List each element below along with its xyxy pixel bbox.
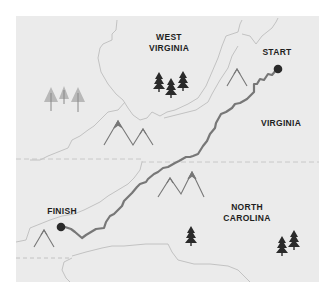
state-borders — [16, 18, 278, 282]
pine-tree-icon — [165, 78, 177, 98]
state-label-virginia: VIRGINIA — [261, 118, 301, 129]
nc-south-border — [72, 244, 250, 282]
finish-label: FINISH — [47, 206, 77, 217]
state-label-west-virginia: WEST VIRGINIA — [149, 32, 189, 54]
wv-line1: WEST — [149, 32, 189, 43]
wv-line2: VIRGINIA — [149, 43, 189, 54]
start-marker-icon — [274, 65, 283, 74]
nc-pine-trees — [185, 226, 300, 256]
pine-tree-icon — [153, 72, 165, 92]
pine-tree-icon — [177, 71, 189, 91]
va-nc-dashed-border — [16, 159, 319, 162]
start-label: START — [262, 47, 291, 58]
nc-line1: NORTH — [223, 202, 270, 213]
mountain-icon — [104, 121, 153, 145]
mountain-icon — [34, 230, 54, 247]
wv-pine-trees — [153, 71, 189, 98]
light-tree-icon — [71, 87, 85, 112]
pine-tree-icon — [276, 236, 288, 256]
light-tree-group — [44, 86, 85, 112]
mountain-icon — [227, 69, 247, 86]
ky-border — [164, 46, 238, 118]
wv-east-border — [242, 18, 278, 44]
nc-line2: CAROLINA — [223, 213, 270, 224]
nc-sc-border — [62, 258, 72, 282]
finish-marker-icon — [57, 223, 66, 232]
pine-tree-icon — [185, 226, 197, 246]
mountain-icon — [158, 172, 204, 197]
pine-tree-icon — [288, 230, 300, 250]
light-tree-icon — [59, 86, 69, 104]
light-tree-icon — [44, 87, 58, 111]
state-label-north-carolina: NORTH CAROLINA — [223, 202, 270, 224]
